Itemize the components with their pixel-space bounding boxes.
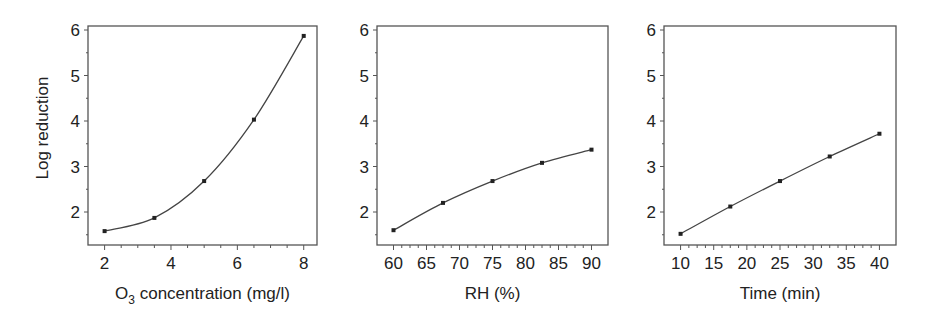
x-tick-label: 65	[417, 254, 436, 273]
y-axis-label: Log reduction	[33, 76, 52, 179]
data-point	[491, 179, 495, 183]
data-point	[778, 179, 782, 183]
x-tick-label: 90	[582, 254, 601, 273]
y-tick-label: 2	[647, 203, 656, 222]
x-axis-label: Time (min)	[740, 284, 821, 303]
x-tick-label: 70	[450, 254, 469, 273]
data-point	[441, 201, 445, 205]
y-tick-label: 6	[71, 21, 80, 40]
plot-frame	[664, 26, 896, 245]
x-tick-label: 40	[870, 254, 889, 273]
x-tick-label: 30	[804, 254, 823, 273]
data-line	[105, 36, 304, 231]
data-point	[728, 205, 732, 209]
x-tick-label: 80	[516, 254, 535, 273]
x-tick-label: 35	[837, 254, 856, 273]
y-tick-label: 3	[360, 158, 369, 177]
x-axis-label: O3 concentration (mg/l)	[115, 284, 290, 307]
y-tick-label: 5	[71, 67, 80, 86]
x-axis-label: RH (%)	[465, 284, 521, 303]
y-tick-label: 2	[360, 203, 369, 222]
chart-panel-1: 234562468O3 concentration (mg/l)	[71, 21, 317, 307]
x-tick-label: 85	[549, 254, 568, 273]
x-tick-label: 2	[100, 254, 109, 273]
data-point	[152, 216, 156, 220]
y-tick-label: 5	[647, 67, 656, 86]
y-tick-label: 4	[71, 112, 80, 131]
y-tick-label: 6	[647, 21, 656, 40]
chart-panel-2: 2345660657075808590RH (%)	[360, 21, 608, 303]
y-tick-label: 3	[647, 158, 656, 177]
x-tick-label: 20	[737, 254, 756, 273]
data-line	[394, 150, 592, 231]
x-tick-label: 10	[671, 254, 690, 273]
x-tick-label: 6	[233, 254, 242, 273]
x-tick-label: 15	[704, 254, 723, 273]
data-point	[302, 34, 306, 38]
data-point	[877, 132, 881, 136]
data-point	[828, 154, 832, 158]
x-tick-label: 75	[483, 254, 502, 273]
data-point	[590, 148, 594, 152]
y-tick-label: 4	[647, 112, 656, 131]
data-point	[540, 161, 544, 165]
y-tick-label: 5	[360, 67, 369, 86]
plot-frame	[88, 26, 317, 245]
x-tick-label: 8	[299, 254, 308, 273]
plot-frame	[377, 26, 608, 245]
data-point	[392, 228, 396, 232]
data-point	[202, 179, 206, 183]
data-point	[252, 118, 256, 122]
figure: Log reduction 234562468O3 concentration …	[0, 0, 928, 329]
x-tick-label: 4	[166, 254, 175, 273]
y-tick-label: 4	[360, 112, 369, 131]
y-tick-label: 6	[360, 21, 369, 40]
chart-panel-3: 2345610152025303540Time (min)	[647, 21, 896, 303]
data-line	[681, 134, 880, 234]
data-point	[103, 229, 107, 233]
y-tick-label: 2	[71, 203, 80, 222]
x-tick-label: 60	[384, 254, 403, 273]
data-point	[679, 232, 683, 236]
y-tick-label: 3	[71, 158, 80, 177]
x-tick-label: 25	[771, 254, 790, 273]
